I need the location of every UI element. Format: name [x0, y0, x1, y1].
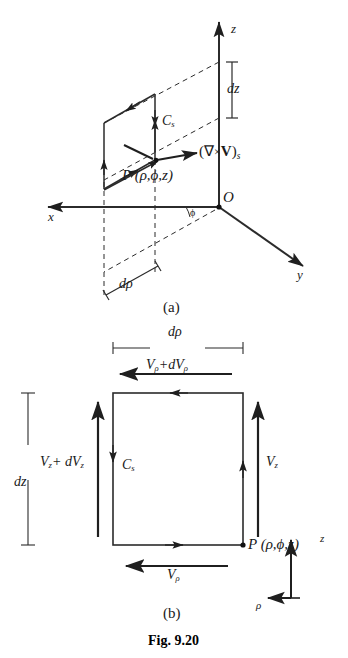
panel-b-top-mid: +d — [159, 357, 175, 372]
panel-a-y-axis — [219, 207, 303, 266]
panel-b-point-p-marker — [240, 542, 245, 547]
times-icon: × — [214, 145, 221, 159]
panel-b-left-mid: + d — [52, 454, 72, 469]
panel-b-point-label: P (ρ,ϕ,z) — [248, 537, 299, 552]
panel-a-diagram — [0, 0, 348, 330]
panel-a-origin-marker — [216, 204, 221, 209]
panel-b-bottom-v: V — [167, 567, 176, 582]
panel-b-bottom-sub: ρ — [176, 573, 180, 583]
panel-a-curl-vector-symbol: V — [221, 143, 232, 159]
panel-a-curl-sub: s — [237, 151, 241, 161]
nabla-icon: ∇ — [204, 143, 214, 159]
panel-b-left-edge-label: Vz+ dVz — [40, 455, 84, 470]
panel-b-dz-label: dz — [14, 475, 26, 489]
panel-a-z-axis-label: z — [231, 22, 236, 35]
panel-b-top-edge-label: Vρ+dVρ — [146, 358, 188, 373]
panel-a-contour-label: Cs — [162, 114, 175, 129]
panel-a-phi-label: ϕ — [190, 208, 195, 218]
figure-caption: Fig. 9.20 — [148, 634, 199, 648]
panel-a-point-p-marker — [154, 158, 159, 163]
panel-a-dz-label: dz — [227, 82, 239, 96]
panel-b-top-sub2: ρ — [184, 363, 188, 373]
panel-a-point-label: P (ρ,ϕ,z) — [122, 168, 173, 183]
panel-b-right-sub: z — [275, 460, 278, 470]
panel-a-contour-label-sub: s — [171, 119, 174, 129]
panel-b-mini-axis-z-label: z — [320, 533, 324, 544]
panel-b-left-v: V — [40, 454, 49, 469]
panel-a-contour-label-base: C — [162, 113, 171, 128]
panel-b-dz-dimension — [21, 393, 35, 545]
panel-b-right-edge-label: Vz — [266, 455, 278, 470]
panel-b-contour-label: Cs — [122, 458, 135, 473]
panel-a-drho-label: dρ — [119, 277, 133, 291]
panel-a-caption: (a) — [163, 300, 180, 315]
panel-a-curl-label: (∇×V)s — [199, 144, 240, 161]
panel-b-bottom-edge-label: Vρ — [167, 568, 180, 583]
panel-b-contour-sub: s — [131, 463, 134, 473]
panel-b-mini-axis-rho-label: ρ — [256, 600, 261, 611]
panel-a-y-axis-label: y — [297, 268, 303, 281]
panel-a-origin-label: O — [223, 190, 234, 205]
panel-b-right-v: V — [266, 454, 275, 469]
panel-b-top-v: V — [146, 357, 155, 372]
figure-page: z x y dz dρ O ϕ Cs P (ρ,ϕ,z) (∇×V)s (a) — [0, 0, 348, 658]
panel-b-drho-dimension — [113, 342, 243, 354]
panel-b-contour-base: C — [122, 457, 131, 472]
panel-a-curl-vector — [124, 145, 197, 160]
panel-b-left-sub2: z — [80, 460, 83, 470]
panel-b-drho-label: dρ — [168, 325, 182, 339]
panel-b-top-v2: V — [175, 357, 184, 372]
panel-a-x-axis-label: x — [48, 210, 54, 223]
panel-b-caption: (b) — [163, 606, 181, 621]
